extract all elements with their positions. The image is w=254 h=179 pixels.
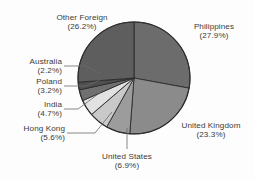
slice-label-other-foreign-name: Other Foreign: [34, 13, 130, 22]
slice-label-united-kingdom-pct: (23.3%): [168, 130, 254, 139]
slice-label-hong-kong: Hong Kong (5.6%): [0, 124, 65, 143]
slice-label-australia-pct: (2.2%): [0, 66, 62, 75]
slice-label-hong-kong-pct: (5.6%): [0, 133, 65, 142]
slice-label-india-name: India: [0, 100, 62, 109]
slice-label-india-pct: (4.7%): [0, 109, 62, 118]
pie-chart-figure: Other Foreign (26.2%) Philippines (27.9%…: [0, 0, 254, 179]
pie-slices-group: [78, 22, 190, 134]
slice-label-philippines-pct: (27.9%): [178, 31, 250, 40]
slice-label-hong-kong-name: Hong Kong: [0, 124, 65, 133]
slice-label-other-foreign: Other Foreign (26.2%): [34, 13, 130, 32]
slice-label-united-states: United States (6.9%): [86, 152, 168, 171]
slice-label-india: India (4.7%): [0, 100, 62, 119]
slice-label-poland-name: Poland: [0, 77, 62, 86]
slice-label-philippines: Philippines (27.9%): [178, 22, 250, 41]
slice-label-united-kingdom: United Kingdom (23.3%): [168, 121, 254, 140]
slice-label-united-states-name: United States: [86, 152, 168, 161]
slice-label-united-kingdom-name: United Kingdom: [168, 121, 254, 130]
slice-label-united-states-pct: (6.9%): [86, 161, 168, 170]
slice-label-philippines-name: Philippines: [178, 22, 250, 31]
slice-label-poland-pct: (3.2%): [0, 86, 62, 95]
slice-label-australia: Australia (2.2%): [0, 57, 62, 76]
slice-label-poland: Poland (3.2%): [0, 77, 62, 96]
slice-label-australia-name: Australia: [0, 57, 62, 66]
slice-label-other-foreign-pct: (26.2%): [34, 22, 130, 31]
